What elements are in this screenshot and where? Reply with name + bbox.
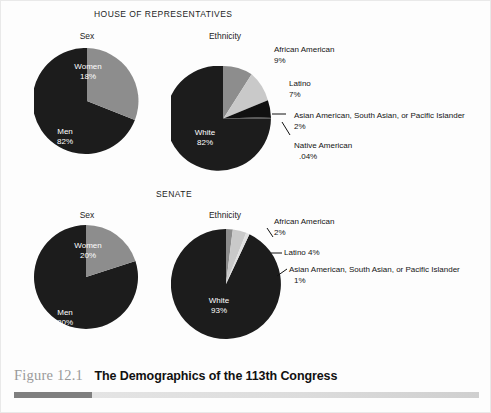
- house-callout-latino: Latino 7%: [289, 79, 311, 100]
- section-title-senate: SENATE: [156, 189, 192, 199]
- house-callout-asian-american: Asian American, South Asian, or Pacific …: [294, 111, 465, 132]
- senate-sex-men-label: Men 80%: [43, 308, 87, 328]
- house-ethnicity-white-label: White 82%: [179, 128, 231, 148]
- figure-title: The Demographics of the 113th Congress: [95, 369, 338, 383]
- senate-sex-women-label: Women 20%: [63, 241, 113, 261]
- house-sex-pie-title: Sex: [63, 31, 111, 41]
- house-callout-african-american: African American 9%: [274, 45, 334, 66]
- house-callout-native-american: Native American .04%: [294, 141, 352, 162]
- house-ethnicity-pie-chart: [171, 66, 276, 171]
- senate-ethnicity-slice-white: [171, 229, 281, 339]
- senate-callout-african-american: African American 2%: [274, 217, 334, 238]
- rule-segment-light: [92, 392, 479, 398]
- figure-number: Figure 12.1: [14, 367, 83, 383]
- senate-ethnicity-white-label: White 93%: [193, 296, 245, 316]
- rule-segment-dark: [14, 392, 92, 398]
- house-sex-men-label: Men 82%: [43, 127, 87, 147]
- leader-house-native-american: [282, 122, 290, 135]
- senate-sex-pie-title: Sex: [63, 210, 111, 220]
- house-ethnicity-pie-svg: [171, 66, 276, 171]
- senate-ethnicity-pie-svg: [171, 229, 281, 339]
- house-sex-women-label: Women 18%: [63, 62, 113, 82]
- figure-page: HOUSE OF REPRESENTATIVES Sex Women 18% M…: [0, 0, 491, 413]
- figure-caption: Figure 12.1 The Demographics of the 113t…: [14, 366, 337, 384]
- section-title-house: HOUSE OF REPRESENTATIVES: [94, 9, 232, 19]
- house-ethnicity-pie-title: Ethnicity: [199, 31, 251, 41]
- senate-ethnicity-pie-title: Ethnicity: [199, 210, 251, 220]
- senate-callout-asian-american: Asian American, South Asian, or Pacific …: [289, 265, 460, 286]
- senate-ethnicity-pie-chart: [171, 229, 281, 339]
- senate-callout-latino: Latino 4%: [284, 248, 320, 259]
- caption-rule-bar: [14, 392, 479, 398]
